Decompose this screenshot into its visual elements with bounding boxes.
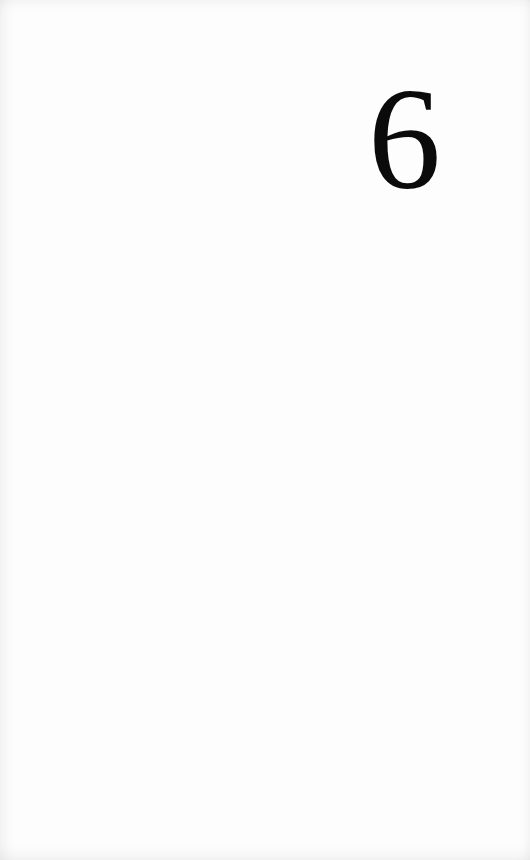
chapter-number: 6 — [368, 66, 441, 212]
book-page: 6 — [0, 0, 530, 860]
